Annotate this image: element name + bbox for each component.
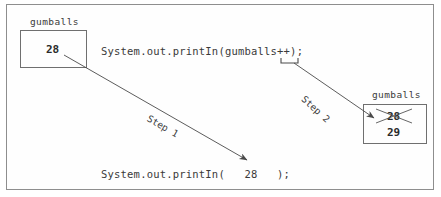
var-label-gumballs-after: gumballs xyxy=(372,89,421,100)
code-line-source-statement: System.out.printIn(gumballs++); xyxy=(101,45,303,57)
var-new-value-gumballs-after: 29 xyxy=(387,126,400,139)
figure-canvas: gumballs 28 System.out.printIn(gumballs+… xyxy=(0,0,441,197)
var-label-gumballs-before: gumballs xyxy=(30,16,79,27)
var-value-gumballs-before: 28 xyxy=(46,43,59,56)
var-old-value-gumballs-after: 28 xyxy=(387,110,400,123)
code-line-output-statement: System.out.printIn( 28 ); xyxy=(101,168,290,180)
